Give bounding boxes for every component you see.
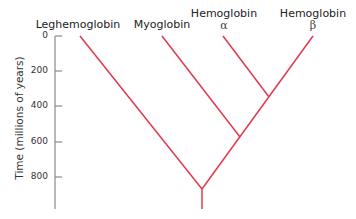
leaf-myoglobin: Myoglobin xyxy=(134,19,191,31)
tree-diagram xyxy=(0,0,356,219)
leaf-hemoglobin-alpha: Hemoglobin α xyxy=(191,8,257,32)
y-axis-label: Time (millions of years) xyxy=(13,53,25,183)
tick-0: 0 xyxy=(18,30,48,40)
time-axis xyxy=(55,36,62,209)
leaf-leghemoglobin: Leghemoglobin xyxy=(36,19,121,31)
leaf-hemoglobin-beta: Hemoglobin β xyxy=(280,8,346,32)
tree-branches xyxy=(80,36,313,209)
